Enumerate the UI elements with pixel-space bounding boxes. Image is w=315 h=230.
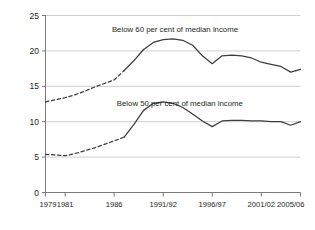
chart-background [0, 0, 315, 230]
y-axis-tick-label: 10 [30, 117, 40, 127]
x-axis-tick-label: 1979 [40, 200, 57, 209]
chart-container: 0510152025 1979198119861991/921996/97200… [0, 0, 315, 230]
y-axis-tick-label: 20 [30, 46, 40, 56]
x-axis-tick-label: 2001/02 [248, 200, 275, 209]
x-axis-tick-label: 1981 [57, 200, 74, 209]
y-axis-tick-label: 25 [30, 11, 40, 21]
series-annotation-label: Below 50 per cent of median income [117, 99, 243, 108]
x-axis-tick-label: 1996/97 [199, 200, 226, 209]
x-axis-tick-label: 2005/06 [277, 200, 304, 209]
y-axis-tick-label: 5 [34, 152, 39, 162]
series-annotation-label: Below 60 per cent of median income [112, 25, 238, 34]
line-chart: 0510152025 1979198119861991/921996/97200… [0, 0, 315, 230]
y-axis-tick-label: 0 [34, 188, 39, 198]
y-axis-tick-label: 15 [30, 81, 40, 91]
x-axis-tick-label: 1986 [106, 200, 123, 209]
x-axis-tick-label: 1991/92 [149, 200, 176, 209]
